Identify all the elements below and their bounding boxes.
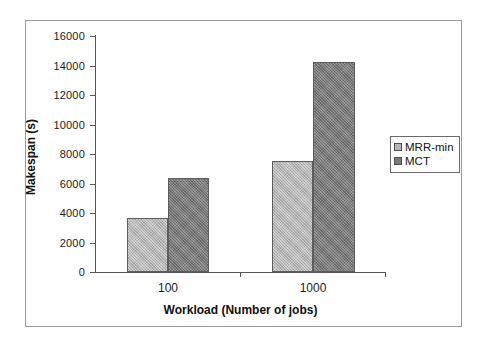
bar-mrrmin-1000 (272, 161, 313, 272)
y-tick-label-16000: 16000 (53, 31, 85, 42)
chart-legend: MRR-min MCT (390, 136, 460, 173)
y-tick-16000 (90, 36, 95, 37)
bar-mrrmin-100 (127, 218, 168, 272)
x-tick-label-100: 100 (118, 281, 218, 295)
y-tick-label-10000: 10000 (53, 120, 85, 131)
legend-label-mrrmin: MRR-min (405, 141, 454, 153)
y-axis-line (95, 35, 96, 273)
x-tick-label-1000: 1000 (263, 281, 363, 295)
y-axis-title: Makespan (s) (24, 97, 38, 217)
x-tick-end (385, 272, 386, 277)
x-tick-separator (240, 272, 241, 277)
y-tick-label-14000: 14000 (53, 61, 85, 72)
y-tick-2000 (90, 243, 95, 244)
x-axis-title: Workload (Number of jobs) (96, 303, 385, 317)
y-tick-6000 (90, 184, 95, 185)
legend-item-mct: MCT (394, 154, 454, 168)
y-tick-12000 (90, 95, 95, 96)
bar-chart: 0 2000 4000 6000 8000 10000 12000 14000 … (0, 0, 486, 352)
y-tick-label-2000: 2000 (60, 238, 85, 249)
legend-swatch-mct-icon (394, 157, 402, 165)
legend-swatch-mrrmin-icon (394, 143, 402, 151)
y-tick-14000 (90, 66, 95, 67)
y-tick-8000 (90, 154, 95, 155)
legend-label-mct: MCT (405, 155, 430, 167)
y-tick-label-0: 0 (79, 267, 85, 278)
y-tick-4000 (90, 213, 95, 214)
y-tick-label-6000: 6000 (60, 179, 85, 190)
bar-mct-100 (168, 178, 209, 272)
y-tick-label-4000: 4000 (60, 208, 85, 219)
y-tick-label-12000: 12000 (53, 90, 85, 101)
legend-item-mrrmin: MRR-min (394, 140, 454, 154)
y-tick-0 (90, 272, 95, 273)
bar-mct-1000 (313, 62, 355, 272)
y-tick-10000 (90, 125, 95, 126)
y-tick-label-8000: 8000 (60, 149, 85, 160)
